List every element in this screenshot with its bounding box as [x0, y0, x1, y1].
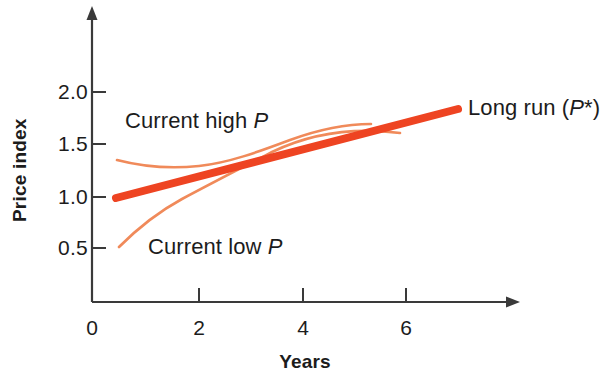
- x-axis-arrowhead: [506, 297, 520, 308]
- annotation-current-high-p: Current high P: [125, 110, 268, 132]
- price-index-chart: 2.0 1.5 1.0 0.5 0 2 4 6 Price index Year…: [0, 0, 613, 376]
- y-axis-title: Price index: [10, 118, 29, 222]
- annotation-long-run-p-star: Long run (P*): [468, 97, 600, 119]
- y-tick-label-1-5: 1.5: [58, 133, 88, 154]
- annotation-current-low-p: Current low P: [148, 236, 283, 258]
- x-tick-label-0: 0: [78, 317, 106, 338]
- x-tick-label-6: 6: [392, 317, 420, 338]
- annotation-current-high-p-prefix: Current high: [125, 108, 253, 133]
- x-tick-label-4: 4: [289, 317, 317, 338]
- y-tick-label-2-0: 2.0: [58, 81, 88, 102]
- x-tick-label-2: 2: [185, 317, 213, 338]
- y-tick-label-0-5: 0.5: [58, 237, 88, 258]
- annotation-long-run-prefix: Long run (: [468, 95, 569, 120]
- x-axis-title: Years: [255, 352, 355, 371]
- y-axis-arrowhead: [87, 6, 98, 20]
- annotation-long-run-suffix: *): [584, 95, 600, 120]
- annotation-current-high-p-symbol: P: [253, 108, 268, 133]
- y-tick-label-1-0: 1.0: [58, 186, 88, 207]
- annotation-current-low-p-symbol: P: [268, 234, 283, 259]
- annotation-long-run-symbol: P: [569, 95, 584, 120]
- annotation-current-low-p-prefix: Current low: [148, 234, 268, 259]
